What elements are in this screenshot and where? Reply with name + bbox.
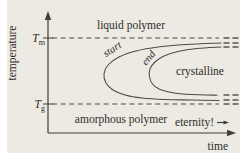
tg-subscript: g: [41, 104, 45, 113]
tm-label: Tm: [32, 32, 45, 47]
end-curve-label: end: [139, 48, 158, 67]
region-label-crystalline: crystalline: [176, 65, 224, 78]
figure-page: temperature time Tm Tg liquid polymer cr…: [0, 0, 240, 165]
eternity-label: eternity!: [175, 116, 214, 129]
region-label-amorphous-polymer: amorphous polymer: [75, 113, 167, 126]
x-axis-arrow-icon: [227, 130, 236, 136]
x-axis-label: time: [208, 140, 228, 152]
y-axis-label: temperature: [6, 26, 19, 81]
tg-label: Tg: [35, 98, 45, 113]
ttt-diagram: temperature time Tm Tg liquid polymer cr…: [0, 0, 240, 165]
tm-subscript: m: [39, 38, 46, 47]
region-label-liquid-polymer: liquid polymer: [97, 19, 165, 32]
y-axis-arrow-icon: [45, 11, 51, 20]
eternity-arrowhead-icon: [224, 120, 230, 124]
